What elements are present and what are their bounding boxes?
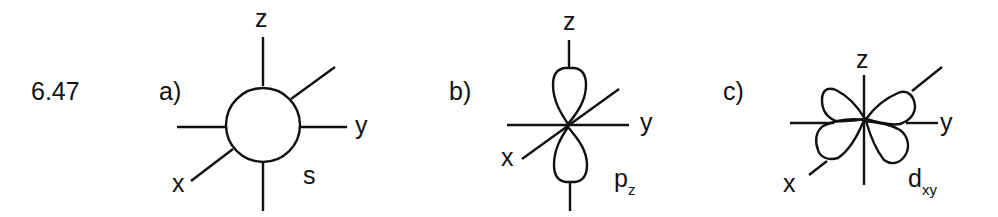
panel-b-x-label: x xyxy=(501,145,514,170)
orbital-subscript: xy xyxy=(922,181,937,198)
orbital-name: d xyxy=(908,164,922,192)
dxy-lobe-upper-right xyxy=(866,92,915,125)
x-axis-back xyxy=(912,67,942,91)
panel-a-orbital-label: s xyxy=(303,163,316,188)
orbital-diagrams xyxy=(0,0,998,217)
panel-c-z-label: z xyxy=(856,47,869,72)
dxy-lobe-lower-right xyxy=(866,121,908,163)
panel-a-y-label: y xyxy=(355,113,368,138)
panel-a-label: a) xyxy=(159,79,181,104)
dxy-lobe-upper-left xyxy=(822,89,865,122)
x-axis-back xyxy=(291,67,335,99)
x-axis-front xyxy=(809,161,827,175)
s-orbital-diagram xyxy=(177,37,347,211)
problem-number: 6.47 xyxy=(31,79,80,104)
panel-a-z-label: z xyxy=(255,6,268,31)
panel-c-y-label: y xyxy=(940,110,953,135)
panel-a-x-label: x xyxy=(172,171,185,196)
pz-orbital-diagram xyxy=(507,40,629,211)
orbital-name: s xyxy=(303,161,316,189)
panel-b-orbital-label: pz xyxy=(614,166,635,191)
panel-b-y-label: y xyxy=(640,110,653,135)
orbital-subscript: z xyxy=(628,181,636,198)
panel-b-z-label: z xyxy=(563,9,576,34)
x-axis-front xyxy=(191,149,233,181)
dxy-lobe-lower-left xyxy=(816,119,864,159)
pz-lower-lobe xyxy=(554,127,587,182)
orbital-name: p xyxy=(614,164,628,192)
panel-c-x-label: x xyxy=(783,171,796,196)
panel-b-label: b) xyxy=(449,79,471,104)
panel-c-orbital-label: dxy xyxy=(908,166,937,191)
s-orbital-sphere xyxy=(226,88,300,162)
panel-c-label: c) xyxy=(723,79,744,104)
